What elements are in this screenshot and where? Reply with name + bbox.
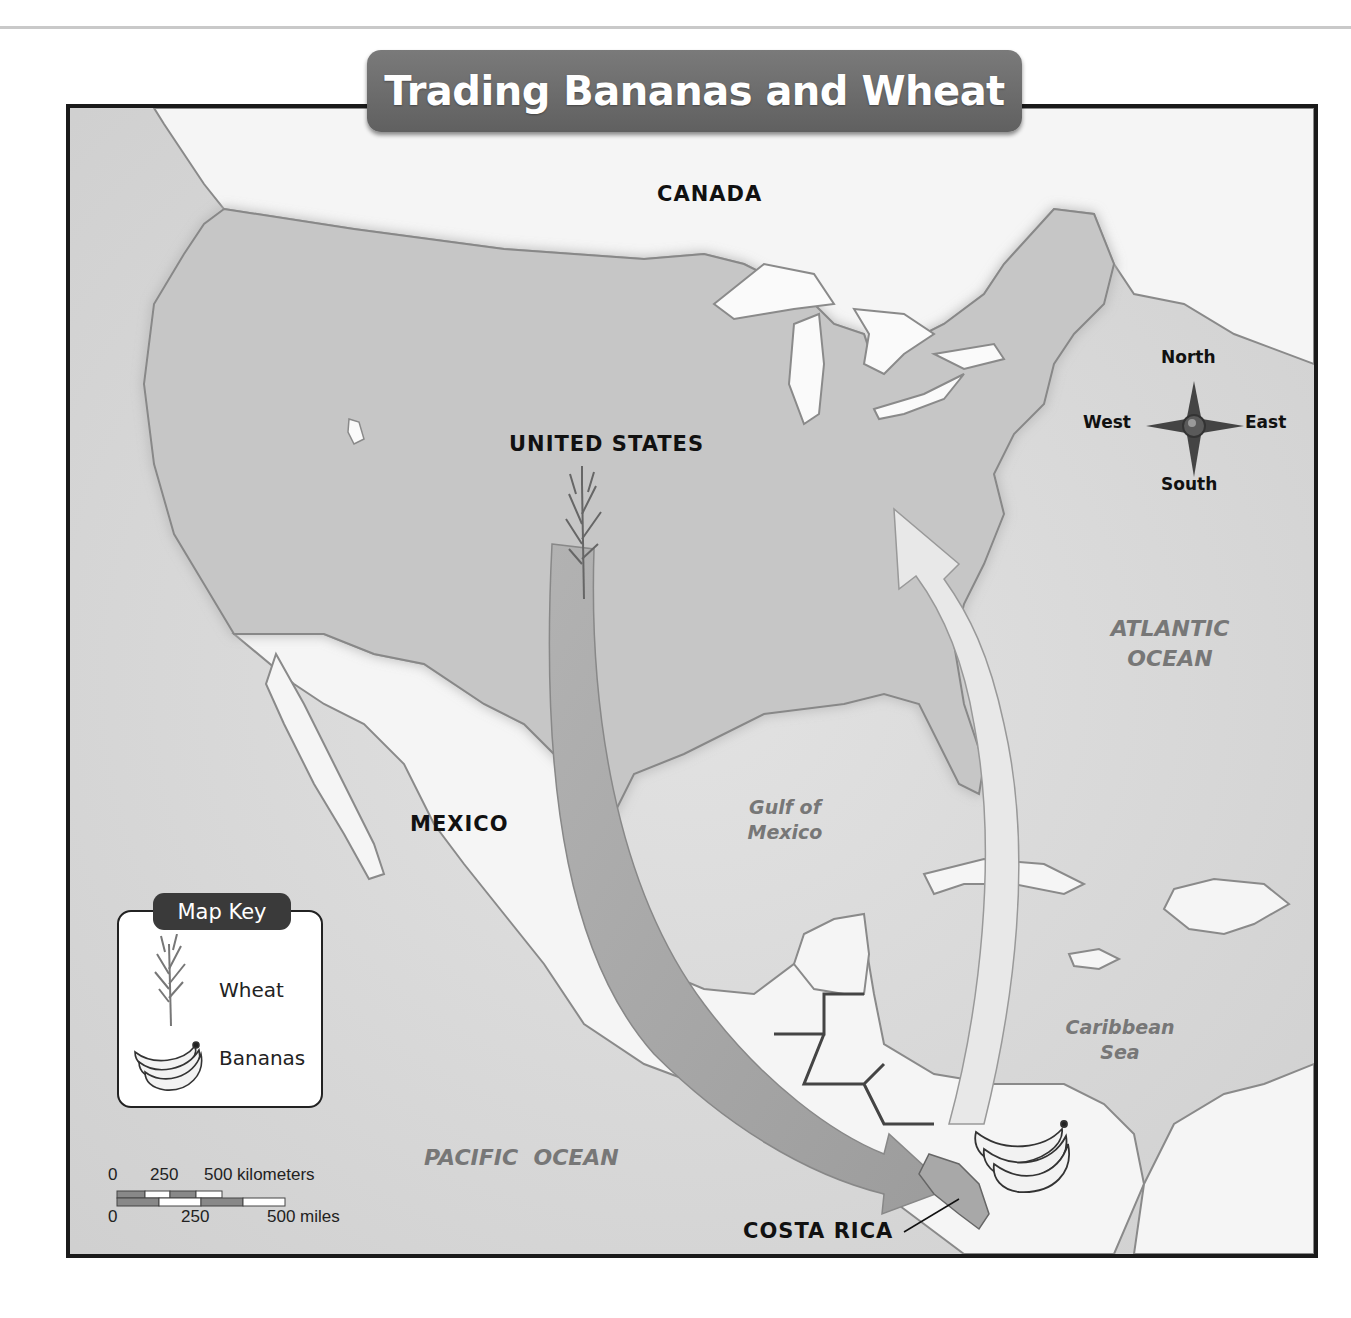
scale-km-500: 500 kilometers <box>204 1165 315 1185</box>
scale-mi-500: 500 miles <box>267 1207 340 1227</box>
gulf-line2: Mexico <box>735 820 835 845</box>
compass-south: South <box>1161 474 1217 494</box>
gulf-line1: Gulf of <box>735 795 835 820</box>
compass-east: East <box>1245 412 1286 432</box>
title-banner: Trading Bananas and Wheat <box>367 50 1022 132</box>
compass-north: North <box>1161 347 1216 367</box>
label-pacific-ocean: PACIFIC OCEAN <box>424 1143 619 1173</box>
key-wheat-icon <box>147 934 197 1029</box>
label-caribbean-sea: Caribbean Sea <box>1060 1015 1180 1065</box>
scale-km-250: 250 <box>150 1165 178 1185</box>
label-mexico: MEXICO <box>410 812 509 836</box>
label-canada: CANADA <box>657 182 762 206</box>
key-bananas-icon <box>133 1040 205 1092</box>
label-gulf-of-mexico: Gulf of Mexico <box>735 795 835 845</box>
page-top-rule <box>0 26 1351 29</box>
caribbean-line2: Sea <box>1060 1040 1180 1065</box>
caribbean-line1: Caribbean <box>1060 1015 1180 1040</box>
label-costa-rica: COSTA RICA <box>743 1219 893 1243</box>
label-united-states: UNITED STATES <box>509 432 704 456</box>
key-label-bananas: Bananas <box>219 1046 305 1070</box>
scale-km-0: 0 <box>108 1165 117 1185</box>
scale-mi-250: 250 <box>181 1207 209 1227</box>
scale-mi-0: 0 <box>108 1207 117 1227</box>
key-label-wheat: Wheat <box>219 978 284 1002</box>
compass-west: West <box>1083 412 1131 432</box>
map-key-title: Map Key <box>153 893 291 930</box>
atlantic-line1: ATLANTIC <box>1100 614 1240 644</box>
atlantic-line2: OCEAN <box>1100 644 1240 674</box>
label-atlantic-ocean: ATLANTIC OCEAN <box>1100 614 1240 674</box>
map-key: Wheat Bananas <box>117 910 323 1108</box>
map-title: Trading Bananas and Wheat <box>384 68 1005 114</box>
